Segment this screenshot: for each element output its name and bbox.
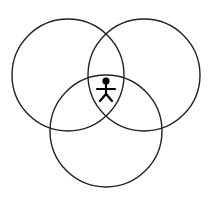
venn-diagram	[0, 0, 211, 198]
person-icon	[97, 77, 115, 101]
